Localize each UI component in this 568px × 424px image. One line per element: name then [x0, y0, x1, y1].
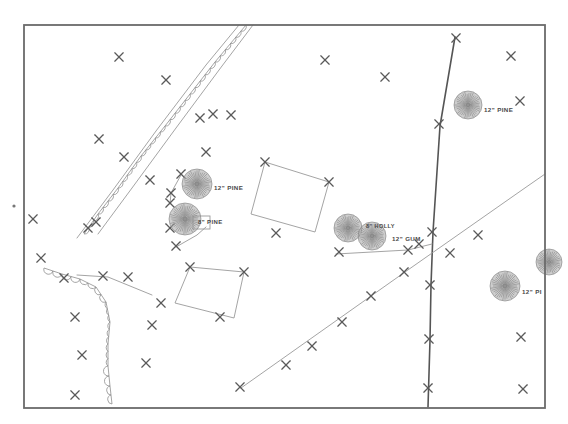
tree-symbol-12-pine-upper	[182, 169, 212, 199]
tree-symbol-12-pine-upper-trunk	[195, 182, 200, 187]
tree-12-pine-clip-label: 12" PI	[522, 288, 542, 295]
stray-dot-group	[12, 204, 15, 207]
tree-symbol-edge-clipped-trunk	[547, 260, 551, 264]
tree-symbol-8-holly-trunk	[346, 226, 350, 230]
map-background	[0, 0, 568, 424]
stray-ink-dot	[12, 204, 15, 207]
tree-symbol-8-pine-trunk	[182, 216, 187, 221]
tree-symbol-8-holly	[334, 214, 362, 242]
tree-12-pine-upper-label: 12" PINE	[214, 184, 243, 191]
tree-symbol-12-pine-lower-trunk	[503, 284, 508, 289]
survey-map-canvas: 12" PINE8" PINE8" HOLLY12" GUM12" PINE12…	[0, 0, 568, 424]
tree-8-holly-label: 8" HOLLY	[366, 223, 395, 229]
tree-12-pine-right-label: 12" PINE	[484, 106, 513, 113]
tree-12-gum-label: 12" GUM	[392, 235, 421, 242]
tree-symbol-8-pine	[169, 203, 201, 235]
tree-symbol-12-pine-right-trunk	[466, 103, 470, 107]
tree-symbol-edge-clipped	[536, 249, 562, 275]
tree-symbol-12-pine-right	[454, 91, 482, 119]
tree-8-pine-label: 8" PINE	[198, 219, 223, 225]
tree-symbol-12-gum-trunk	[370, 234, 374, 238]
survey-map: 12" PINE8" PINE8" HOLLY12" GUM12" PINE12…	[0, 0, 568, 424]
tree-symbol-12-pine-lower	[490, 271, 520, 301]
